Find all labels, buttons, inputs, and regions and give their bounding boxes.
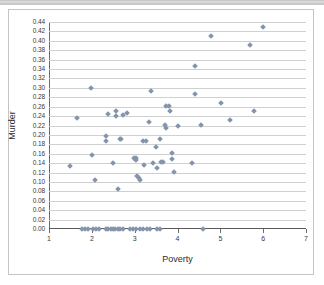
y-tick-label: 0.20 bbox=[33, 132, 45, 139]
x-tick-label: 1 bbox=[47, 235, 51, 242]
x-tick-mark bbox=[263, 229, 264, 233]
y-tick-label: 0.36 bbox=[33, 56, 45, 63]
y-tick-label: 0.26 bbox=[33, 103, 45, 110]
y-tick-label: 0.02 bbox=[33, 216, 45, 223]
x-tick-label: 4 bbox=[176, 235, 180, 242]
y-tick-label: 0.16 bbox=[33, 150, 45, 157]
y-tick-label: 0.14 bbox=[33, 160, 45, 167]
y-tick-label: 0.28 bbox=[33, 94, 45, 101]
gridline-y bbox=[49, 163, 306, 164]
gridline-y bbox=[49, 97, 306, 98]
y-tick-label: 0.38 bbox=[33, 47, 45, 54]
x-tick-label: 2 bbox=[90, 235, 94, 242]
plot-area: 0.000.020.040.060.080.100.120.140.160.18… bbox=[49, 22, 306, 229]
gridline-y bbox=[49, 107, 306, 108]
y-tick-label: 0.40 bbox=[33, 38, 45, 45]
y-tick-label: 0.00 bbox=[33, 226, 45, 233]
y-tick-label: 0.06 bbox=[33, 198, 45, 205]
y-tick-label: 0.04 bbox=[33, 207, 45, 214]
y-tick-label: 0.12 bbox=[33, 169, 45, 176]
x-tick-label: 3 bbox=[133, 235, 137, 242]
gridline-y bbox=[49, 41, 306, 42]
x-tick-mark bbox=[178, 229, 179, 233]
gridline-y bbox=[49, 191, 306, 192]
gridline-y bbox=[49, 50, 306, 51]
y-tick-label: 0.30 bbox=[33, 85, 45, 92]
gridline-y bbox=[49, 22, 306, 23]
chart-card: 0.000.020.040.060.080.100.120.140.160.18… bbox=[8, 9, 314, 275]
gridline-y bbox=[49, 31, 306, 32]
gridline-y bbox=[49, 78, 306, 79]
x-tick-mark bbox=[49, 229, 50, 233]
gridline-y bbox=[49, 60, 306, 61]
y-tick-label: 0.24 bbox=[33, 113, 45, 120]
y-tick-label: 0.08 bbox=[33, 188, 45, 195]
gridline-y bbox=[49, 116, 306, 117]
gridline-y bbox=[49, 154, 306, 155]
gridline-y bbox=[49, 201, 306, 202]
y-tick-label: 0.34 bbox=[33, 66, 45, 73]
x-tick-label: 5 bbox=[218, 235, 222, 242]
x-tick-label: 6 bbox=[261, 235, 265, 242]
y-axis-title: Murder bbox=[7, 22, 19, 229]
x-tick-mark bbox=[306, 229, 307, 233]
y-tick-label: 0.32 bbox=[33, 75, 45, 82]
y-tick-label: 0.44 bbox=[33, 19, 45, 26]
gridline-y bbox=[49, 182, 306, 183]
y-tick-label: 0.42 bbox=[33, 28, 45, 35]
x-tick-label: 7 bbox=[304, 235, 308, 242]
gridline-y bbox=[49, 135, 306, 136]
gridline-y bbox=[49, 69, 306, 70]
y-tick-label: 0.18 bbox=[33, 141, 45, 148]
gridline-y bbox=[49, 220, 306, 221]
x-tick-mark bbox=[220, 229, 221, 233]
window-top-strip-highlight bbox=[0, 1, 324, 3]
gridline-y bbox=[49, 210, 306, 211]
x-axis-title: Poverty bbox=[49, 254, 306, 264]
gridline-y bbox=[49, 173, 306, 174]
y-tick-label: 0.10 bbox=[33, 179, 45, 186]
y-tick-label: 0.22 bbox=[33, 122, 45, 129]
gridline-y bbox=[49, 144, 306, 145]
scatter-plot-screenshot: 0.000.020.040.060.080.100.120.140.160.18… bbox=[0, 0, 324, 285]
